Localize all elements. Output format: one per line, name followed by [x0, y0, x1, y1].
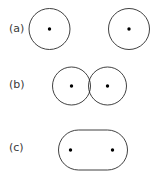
panel-b-right-center-dot — [106, 84, 109, 87]
panel-c-left-center-dot — [69, 148, 72, 151]
figure-container: (a) (b) (c) — [0, 0, 160, 178]
panel-a-left-center-dot — [48, 27, 51, 30]
panel-c-right-center-dot — [111, 148, 114, 151]
panel-label-a: (a) — [9, 23, 24, 34]
panel-label-b: (b) — [9, 79, 25, 90]
panel-label-c: (c) — [9, 142, 24, 153]
panel-b-left-center-dot — [70, 84, 73, 87]
panel-a-right-center-dot — [127, 27, 130, 30]
